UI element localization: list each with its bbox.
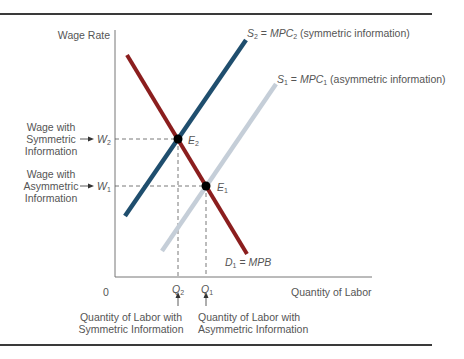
q2-label: Q2 [172,283,184,295]
e2-point [174,135,183,144]
w1-description: Wage with Asymmetric Information [20,168,82,204]
s1-label: S1 = MPC1 (asymmetric information) [277,73,446,85]
s1-curve [162,84,276,251]
w1-label: W1 [97,180,111,192]
s2-label: S2 = MPC2 (symmetric information) [247,27,410,39]
e1-label: E1 [217,181,228,193]
w2-description: Wage with Symmetric Information [20,121,82,157]
d1-label: D1 = MPB [225,256,271,268]
e1-point [202,182,211,191]
q2-description: Quantity of Labor with Symmetric Informa… [76,311,186,335]
y-axis-label: Wage Rate [30,29,110,41]
w1-right-arrow-icon [80,184,94,189]
origin-label: 0 [103,286,109,298]
x-axis-label: Quantity of Labor [291,286,372,298]
w2-right-arrow-icon [80,137,94,142]
e2-label: E2 [188,134,199,146]
q1-description: Quantity of Labor with Asymmetric Inform… [198,311,308,335]
q1-label: Q1 [201,283,213,295]
w2-label: W2 [97,133,111,145]
